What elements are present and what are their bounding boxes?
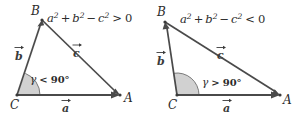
- formula-minus: −: [219, 12, 229, 26]
- vertex-label-b: B: [30, 4, 40, 18]
- vector-label-c-text: c: [73, 47, 80, 60]
- vector-label-b-text: b: [15, 50, 23, 63]
- formula-b: b: [205, 12, 212, 26]
- formula-plus: +: [194, 12, 204, 26]
- formula-obtuse: a2+b2−c2<0: [180, 12, 265, 26]
- vector-label-c-text: c: [217, 49, 224, 62]
- formula-acute: a2+b2−c2>0: [47, 11, 132, 25]
- formula-rhs: 0: [125, 11, 132, 25]
- formula-c-exp: 2: [104, 11, 110, 20]
- vector-label-a: a: [223, 99, 233, 115]
- obtuse-triangle-svg: B C A b c a γ>90°: [147, 0, 295, 119]
- formula-b-exp: 2: [79, 11, 85, 20]
- angle-symbol-gamma: γ: [30, 73, 37, 85]
- vertex-dot-b: [40, 18, 43, 21]
- vertex-label-c: C: [168, 98, 177, 112]
- vertex-label-a: A: [282, 93, 292, 107]
- angle-value: 90°: [51, 74, 70, 85]
- vertex-label-a: A: [123, 91, 133, 105]
- angle-value: 90°: [223, 77, 242, 88]
- formula-relation: >: [112, 11, 122, 25]
- vertex-dot-c: [15, 93, 18, 96]
- vertex-dot-a: [118, 93, 121, 96]
- formula-minus: −: [86, 11, 96, 25]
- angle-label-gamma: γ<90°: [30, 73, 70, 85]
- angle-label-gamma: γ>90°: [202, 76, 242, 88]
- vertex-label-c: C: [10, 98, 19, 112]
- vector-label-a-text: a: [62, 102, 69, 115]
- obtuse-triangle-panel: B C A b c a γ>90°: [147, 0, 295, 119]
- vector-label-b: b: [157, 51, 167, 68]
- formula-b: b: [72, 11, 79, 25]
- formula-b-exp: 2: [212, 12, 218, 21]
- formula-a-exp: 2: [186, 12, 192, 21]
- acute-triangle-panel: B C A b c a γ<90°: [0, 0, 148, 119]
- acute-triangle-svg: B C A b c a γ<90°: [0, 0, 148, 119]
- vector-label-b: b: [15, 46, 25, 63]
- vertex-dot-c: [175, 93, 178, 96]
- formula-rhs: 0: [258, 12, 265, 26]
- vector-label-a: a: [62, 99, 72, 115]
- formula-relation: <: [245, 12, 255, 26]
- side-b-line: [167, 27, 177, 95]
- law-of-cosines-figure: B C A b c a γ<90°: [0, 0, 295, 119]
- formula-c-exp: 2: [237, 12, 243, 21]
- vertex-dot-a: [278, 93, 281, 96]
- angle-relation: <: [39, 74, 47, 85]
- formula-plus: +: [61, 11, 71, 25]
- angle-relation: >: [211, 77, 219, 88]
- vertex-dot-b: [163, 20, 166, 23]
- vertex-label-b: B: [156, 5, 166, 19]
- vector-label-a-text: a: [223, 102, 230, 115]
- angle-symbol-gamma: γ: [202, 76, 209, 88]
- vector-label-b-text: b: [157, 55, 165, 68]
- formula-a-exp: 2: [53, 11, 59, 20]
